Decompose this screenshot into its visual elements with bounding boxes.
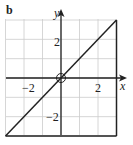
y-axis-label: y: [53, 6, 60, 20]
y-tick-2: 2: [54, 35, 60, 49]
graph-figure: b y x −2 2 2 −2: [0, 0, 133, 145]
x-tick-neg2: −2: [22, 81, 35, 95]
y-tick-neg2: −2: [46, 110, 59, 124]
x-axis-label: x: [119, 79, 126, 93]
x-tick-2: 2: [95, 81, 101, 95]
panel-label: b: [6, 3, 13, 17]
